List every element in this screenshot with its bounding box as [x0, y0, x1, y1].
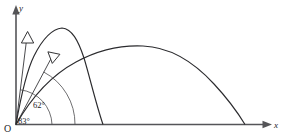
y-axis-label: y [18, 3, 23, 13]
projectile-motion-figure: y x O 62° 83° [0, 0, 282, 138]
figure-canvas: y x O 62° 83° [0, 0, 282, 138]
angle-label-83: 83° [18, 116, 30, 126]
angle-arc-62 [44, 72, 75, 125]
velocity-vector-shallow-shaft [16, 59, 51, 124]
x-axis-label: x [273, 120, 278, 130]
angle-label-62: 62° [33, 100, 45, 110]
x-axis: x [16, 120, 279, 130]
velocity-vector-steep-arrowhead-icon [21, 32, 33, 44]
origin-label: O [4, 123, 11, 134]
x-axis-arrow-icon [263, 121, 273, 128]
y-axis: y [12, 3, 23, 125]
